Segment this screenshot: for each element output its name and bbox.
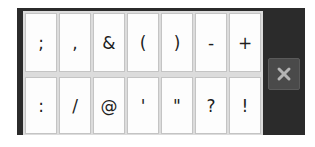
- key-row-1: ; , & ( ) - +: [25, 13, 261, 72]
- key-colon[interactable]: :: [25, 77, 57, 134]
- key-row-2: : / @ ' " ? !: [25, 77, 261, 134]
- keys-area: ; , & ( ) - + : / @ ' " ? !: [23, 11, 263, 135]
- key-minus[interactable]: -: [195, 13, 227, 72]
- key-comma[interactable]: ,: [59, 13, 91, 72]
- symbol-keyboard: ; , & ( ) - + : / @ ' " ? !: [17, 8, 305, 135]
- key-slash[interactable]: /: [59, 77, 91, 134]
- key-exclamation[interactable]: !: [229, 77, 261, 134]
- close-keyboard-button[interactable]: [268, 58, 300, 90]
- key-at[interactable]: @: [93, 77, 125, 134]
- key-close-paren[interactable]: ): [161, 13, 193, 72]
- key-plus[interactable]: +: [229, 13, 261, 72]
- key-semicolon[interactable]: ;: [25, 13, 57, 72]
- key-ampersand[interactable]: &: [93, 13, 125, 72]
- close-icon: [276, 66, 292, 82]
- key-open-paren[interactable]: (: [127, 13, 159, 72]
- key-question[interactable]: ?: [195, 77, 227, 134]
- key-apostrophe[interactable]: ': [127, 77, 159, 134]
- key-double-quote[interactable]: ": [161, 77, 193, 134]
